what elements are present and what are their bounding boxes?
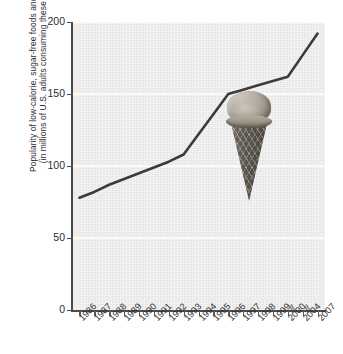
y-axis-title-line-1: Popularity of low-calorie, sugar-free fo… xyxy=(28,0,38,172)
chart-root: Popularity of low-calorie, sugar-free fo… xyxy=(0,0,343,354)
y-tick-label-0: 0 xyxy=(59,303,65,315)
y-tick-label-150: 150 xyxy=(47,87,65,99)
y-axis-line xyxy=(71,22,73,311)
y-tick-mark-200 xyxy=(67,22,71,23)
data-series-line xyxy=(72,22,325,310)
ice-cream-cone-icon xyxy=(221,91,275,203)
y-tick-mark-0 xyxy=(67,310,71,311)
y-tick-label-200: 200 xyxy=(47,15,65,27)
y-tick-mark-50 xyxy=(67,238,71,239)
y-tick-mark-100 xyxy=(67,166,71,167)
y-tick-label-100: 100 xyxy=(47,159,65,171)
y-tick-label-50: 50 xyxy=(53,231,65,243)
cone-rim xyxy=(226,115,272,128)
y-tick-mark-150 xyxy=(67,94,71,95)
plot-area xyxy=(72,22,325,310)
